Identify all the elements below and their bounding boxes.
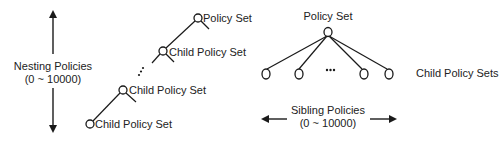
node-circle-icon (119, 86, 127, 94)
root-node-circle-icon (324, 28, 332, 37)
child-policy-sets-label: Child Policy Sets (416, 67, 499, 79)
node-circle-icon (194, 14, 202, 22)
node-circle-icon (159, 47, 167, 55)
child-node-circle-icon (295, 69, 303, 79)
nesting-edge (166, 21, 195, 48)
nesting-axis-range: (0 ~ 10000) (25, 73, 82, 85)
nesting-node-label: Child Policy Set (129, 84, 206, 96)
sibling-axis-range: (0 ~ 10000) (300, 117, 357, 129)
nesting-axis-label: Nesting Policies (14, 60, 93, 72)
sibling-diagram: Policy Set Child Policy Sets Sibling Pol… (262, 10, 499, 129)
child-node-circle-icon (262, 69, 270, 79)
sibling-root-label: Policy Set (304, 10, 353, 22)
policy-hierarchy-diagram: Nesting Policies (0 ~ 10000) Policy Set … (0, 0, 503, 145)
child-node-circle-icon (385, 69, 393, 79)
sibling-ellipsis-icon (326, 69, 335, 71)
nesting-node-label: Child Policy Set (95, 118, 172, 130)
node-circle-icon (86, 120, 94, 128)
sibling-edge (329, 36, 387, 69)
sibling-edge (299, 36, 327, 69)
nesting-node-label: Child Policy Set (169, 46, 246, 58)
nesting-diagram: Nesting Policies (0 ~ 10000) Policy Set … (14, 12, 252, 131)
child-node-circle-icon (360, 69, 368, 79)
nesting-node-label: Policy Set (203, 12, 252, 24)
nesting-edge (93, 93, 120, 121)
sibling-edge (267, 36, 327, 69)
nesting-ellipsis-icon (138, 67, 144, 76)
nesting-edge (152, 54, 160, 63)
sibling-axis-label: Sibling Policies (291, 104, 365, 116)
